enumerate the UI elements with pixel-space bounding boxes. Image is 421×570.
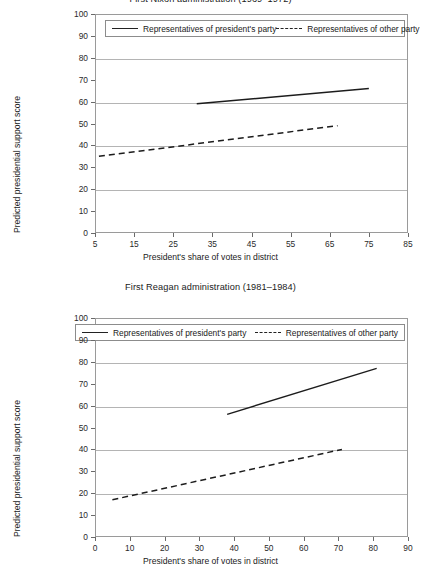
- chart-panel-nixon: First Nixon administration (1969–1972) P…: [0, 0, 421, 270]
- series-line-other-party: [99, 126, 338, 157]
- series-line-president-party: [197, 88, 369, 103]
- chart-panel-reagan: First Reagan administration (1981–1984) …: [0, 282, 421, 570]
- series-layer: [0, 0, 421, 270]
- series-line-president-party: [227, 368, 377, 414]
- series-line-other-party: [112, 449, 342, 499]
- series-layer: [0, 282, 421, 570]
- two-panel-line-chart-figure: First Nixon administration (1969–1972) P…: [0, 0, 421, 570]
